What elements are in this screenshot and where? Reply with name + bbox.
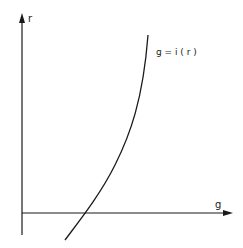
curve-g-i-r	[65, 35, 148, 240]
x-axis-arrow-icon	[223, 210, 233, 216]
y-axis-label: r	[28, 13, 33, 24]
y-axis-arrow-icon	[19, 13, 25, 23]
x-axis-label: g	[215, 199, 221, 210]
diagram-canvas: r g g = i ( r )	[0, 0, 243, 248]
curve-label: g = i ( r )	[156, 47, 197, 57]
